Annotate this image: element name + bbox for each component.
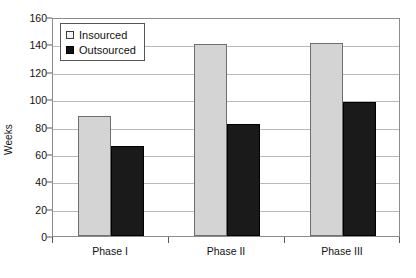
x-axis-tick-label: Phase II	[207, 245, 246, 257]
black-square-icon	[66, 46, 74, 54]
y-axis-title-label: Weeks	[3, 124, 14, 155]
bar-outsourced-phase-ii	[227, 124, 260, 236]
y-axis-tick-label: 120	[29, 67, 47, 79]
x-axis-tick-mark	[168, 237, 169, 243]
y-axis-tick-label: 100	[29, 94, 47, 106]
y-axis-title: Weeks	[0, 0, 16, 278]
bar-chart: Weeks 020406080100120140160 InsourcedOut…	[0, 0, 416, 278]
legend-item-insourced[interactable]: Insourced	[66, 27, 136, 42]
y-axis-tick-label: 140	[29, 39, 47, 51]
legend-item-label: Insourced	[79, 29, 127, 41]
x-axis-tick-labels: Phase IPhase IIPhase III	[52, 245, 400, 265]
bar-insourced-phase-iii	[310, 43, 343, 236]
x-axis-tick-mark	[399, 237, 400, 243]
legend: InsourcedOutsourced	[60, 23, 145, 61]
y-axis-tick-label: 60	[35, 149, 47, 161]
legend-item-label: Outsourced	[79, 44, 136, 56]
bar-outsourced-phase-iii	[343, 102, 376, 236]
bar-insourced-phase-i	[78, 116, 111, 236]
y-axis-tick-label: 80	[35, 122, 47, 134]
x-axis-tick-mark	[52, 237, 53, 243]
bar-insourced-phase-ii	[194, 44, 227, 236]
y-axis-tick-labels: 020406080100120140160	[16, 18, 52, 237]
y-axis-tick-label: 40	[35, 176, 47, 188]
light-gray-square-icon	[66, 31, 74, 39]
bar-outsourced-phase-i	[111, 146, 144, 236]
x-axis-tick-mark	[284, 237, 285, 243]
x-axis-tick-label: Phase III	[321, 245, 362, 257]
x-axis-tick-marks	[52, 237, 400, 243]
plot-area: InsourcedOutsourced	[52, 18, 400, 237]
y-axis-tick-label: 20	[35, 204, 47, 216]
y-axis-tick-label: 160	[29, 12, 47, 24]
legend-item-outsourced[interactable]: Outsourced	[66, 42, 136, 57]
x-axis-tick-label: Phase I	[92, 245, 128, 257]
